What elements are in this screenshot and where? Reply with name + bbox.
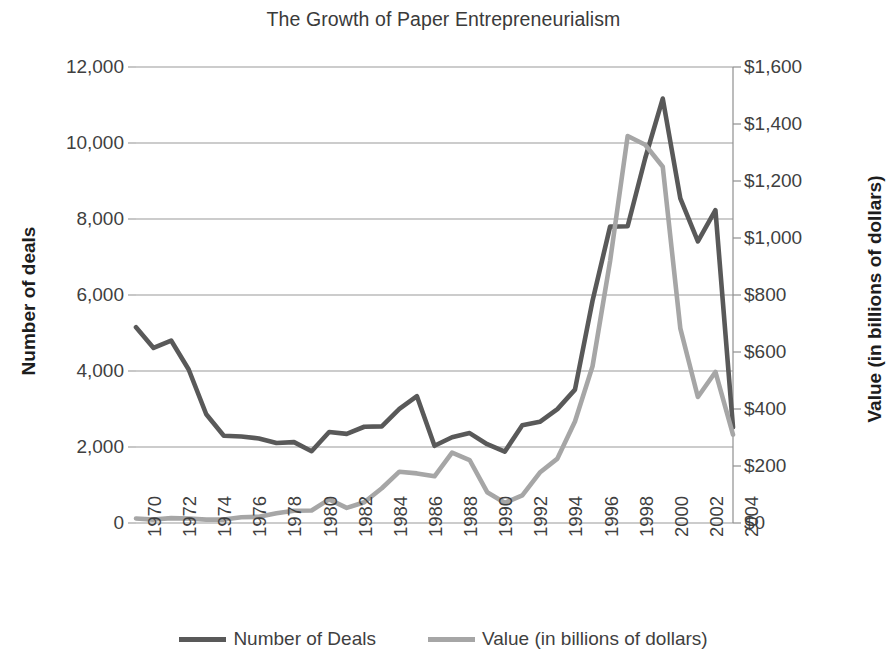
y-axis-right-tick-label: $1,600	[744, 57, 802, 76]
y-axis-left-tick-label: 4,000	[12, 361, 124, 380]
y-axis-right-tick-label: $1,000	[744, 228, 802, 247]
y-axis-left-tick-label: 0	[12, 513, 124, 532]
y-axis-left-tick-label: 10,000	[12, 133, 124, 152]
series-line-1	[136, 99, 733, 452]
x-axis-tick-label: 1992	[530, 496, 552, 537]
x-axis-tick-label: 2004	[741, 496, 763, 537]
legend-item-label: Number of Deals	[233, 628, 376, 650]
y-axis-right-tick-label: $400	[744, 399, 786, 418]
legend-item[interactable]: Number of Deals	[179, 628, 376, 650]
y-axis-right-tick-label: $200	[744, 456, 786, 475]
x-axis-tick-label: 1996	[601, 496, 623, 537]
x-axis-tick-label: 1980	[320, 496, 342, 537]
y-axis-left-tick-label: 8,000	[12, 209, 124, 228]
plot-area	[0, 0, 887, 670]
y-axis-right-title: Value (in billions of dollars)	[864, 154, 886, 444]
legend-item-label: Value (in billions of dollars)	[482, 628, 708, 650]
legend-swatch-icon	[428, 637, 475, 642]
x-axis-tick-label: 1972	[179, 496, 201, 537]
y-axis-right-tick-label: $1,200	[744, 171, 802, 190]
x-axis-tick-label: 2000	[671, 496, 693, 537]
x-axis-tick-label: 1988	[460, 496, 482, 537]
x-axis-tick-label: 1974	[214, 496, 236, 537]
legend-item[interactable]: Value (in billions of dollars)	[428, 628, 708, 650]
x-axis-tick-label: 1994	[565, 496, 587, 537]
x-axis-tick-label: 1976	[249, 496, 271, 537]
y-axis-left-tick-label: 12,000	[12, 57, 124, 76]
chart-container: The Growth of Paper Entrepreneurialism N…	[0, 0, 887, 670]
y-axis-right-tick-label: $800	[744, 285, 786, 304]
x-axis-tick-label: 1970	[144, 496, 166, 537]
y-axis-left-tick-label: 6,000	[12, 285, 124, 304]
y-axis-right-tick-label: $600	[744, 342, 786, 361]
x-axis-tick-label: 1986	[425, 496, 447, 537]
x-axis-tick-label: 1998	[636, 496, 658, 537]
x-axis-tick-label: 1982	[355, 496, 377, 537]
chart-title: The Growth of Paper Entrepreneurialism	[0, 8, 887, 31]
x-axis-tick-label: 2002	[706, 496, 728, 537]
x-axis-tick-label: 1990	[495, 496, 517, 537]
legend-swatch-icon	[179, 637, 226, 642]
series-line-2	[136, 136, 733, 520]
y-axis-right-tick-label: $1,400	[744, 114, 802, 133]
x-axis-tick-label: 1984	[390, 496, 412, 537]
y-axis-left-tick-label: 2,000	[12, 437, 124, 456]
x-axis-tick-label: 1978	[284, 496, 306, 537]
chart-legend: Number of DealsValue (in billions of dol…	[0, 628, 887, 650]
